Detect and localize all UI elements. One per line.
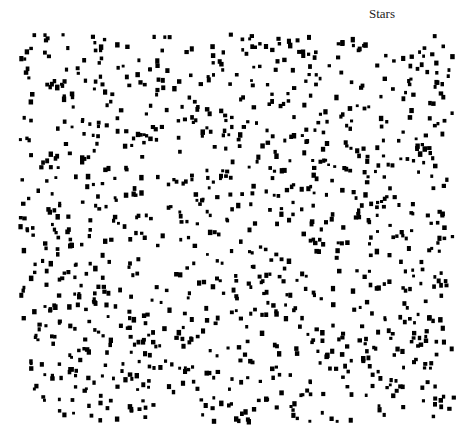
dot-field: [0, 0, 469, 432]
star-field-image: Stars: [0, 0, 469, 432]
